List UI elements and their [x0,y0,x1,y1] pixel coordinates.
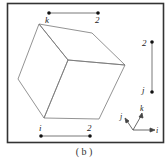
cube-top-face [39,24,125,65]
segment-top-end-label: 2 [95,15,100,25]
segment-top-start-label: k [45,15,50,25]
figure-caption: ( b ) [0,146,168,157]
segment-right: 2 j [141,38,154,95]
figure-canvas: k 2 2 j i 2 i j k [0,0,168,164]
node-dot [150,90,154,94]
segment-right-end-label: j [141,85,145,95]
axis-triad [125,113,155,132]
z-axis-line [133,116,141,130]
segment-bottom-end-label: 2 [87,123,92,133]
y-axis-label: j [119,112,123,121]
cube [18,24,125,119]
node-dot [88,134,92,138]
z-arrow-icon [139,113,143,118]
figure-frame [8,4,164,143]
node-dot [39,134,43,138]
segment-bottom: i 2 [39,123,92,138]
segment-right-start-label: 2 [142,38,147,48]
x-axis-label: i [156,126,158,135]
y-axis-line [127,121,133,130]
node-dot [150,40,154,44]
segment-bottom-start-label: i [39,123,42,133]
z-axis-label: k [140,104,144,113]
cube-left-face [18,24,68,118]
segment-top: k 2 [45,11,100,25]
cube-front-face [44,60,125,119]
x-arrow-icon [150,128,155,132]
y-arrow-icon [125,118,129,123]
